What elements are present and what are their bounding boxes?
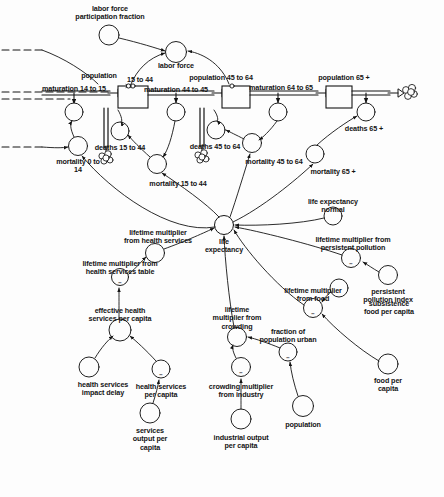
- label-crowding-multiplier-from-industry: crowding multiplier from industry: [209, 383, 273, 400]
- aux-mortality-65-plus: [306, 145, 324, 163]
- label-deaths-65-plus: deaths 65 +: [345, 125, 383, 133]
- label-lifetime-multiplier-from-food: lifetime multiplier from food: [284, 287, 342, 304]
- offpage-dashed-links: [2, 50, 108, 147]
- rate-maturation-14-15: [65, 103, 83, 121]
- label-industrial-output-per-capita: industrial output per capita: [214, 434, 269, 451]
- system-dynamics-diagram: labor force participation fraction labor…: [0, 0, 444, 497]
- label-health-services-per-capita: health services per capita: [136, 383, 186, 400]
- sink-cloud-65-plus: [403, 84, 418, 99]
- label-mortality-15-to-44: mortality 15 to 44: [149, 180, 206, 188]
- label-effective-health-services-per-capita: effective health services per capita: [89, 307, 152, 324]
- label-labor-force: labor force: [158, 62, 194, 70]
- polarity-mark-pollution-multiplier: −: [349, 261, 353, 267]
- aux-labor-force: [166, 42, 187, 63]
- label-mortality-0-to-14: mortality 0 to 14: [56, 158, 100, 175]
- polarity-mark-health-services-table: −: [118, 280, 122, 286]
- label-subsistence-food-per-capita: subsistence food per capita: [364, 300, 414, 317]
- aux-life-expectancy: [215, 216, 234, 235]
- stock-population-45-64: [222, 86, 250, 108]
- label-population-65-plus: population 65 +: [318, 74, 369, 82]
- label-maturation-64-to-65: maturation 64 to 65: [249, 84, 313, 92]
- label-services-output-per-capita: services output per capita: [133, 427, 168, 452]
- label-population-15-44-a: population: [81, 72, 117, 80]
- polarity-mark-food-multiplier: −: [311, 311, 315, 317]
- label-maturation-14-to-15: maturation 14 to 15: [42, 85, 106, 93]
- sink-cloud-15-44: [99, 151, 113, 164]
- label-mortality-65-plus: mortality 65 +: [310, 168, 355, 176]
- label-mortality-45-to-64: mortality 45 to 64: [245, 158, 302, 166]
- label-deaths-15-to-44: deaths 15 to 44: [95, 144, 145, 152]
- aux-mortality-45-64: [243, 134, 262, 153]
- aux-mortality-0-14: [69, 137, 88, 156]
- rate-deaths-15-44: [111, 122, 129, 140]
- polarity-mark-fraction-population-urban: −: [286, 355, 290, 361]
- flow-pipe-deaths-65-plus: [352, 91, 398, 103]
- label-health-services-impact-delay: health services impact delay: [78, 381, 128, 398]
- label-food-per-capita: food per capita: [374, 377, 402, 394]
- label-lifetime-multiplier-from-crowding: lifetime multiplier from crowding: [213, 306, 262, 331]
- label-fraction-of-population-urban: fraction of population urban: [259, 328, 316, 345]
- aux-labor-force-participation-fraction: [99, 25, 119, 45]
- label-population-15-44-b: 15 to 44: [127, 76, 153, 84]
- label-labor-force-participation-fraction: labor force participation fraction: [75, 5, 144, 22]
- label-population: population: [285, 421, 321, 429]
- polarity-mark-health-services-per-capita: −: [159, 372, 163, 378]
- aux-population: [293, 396, 314, 417]
- aux-industrial-output-per-capita: [231, 409, 251, 429]
- label-life-expectancy: life expectancy: [205, 238, 243, 255]
- aux-mortality-15-44: [148, 155, 167, 174]
- polarity-mark-crowding-from-industry: −: [239, 370, 243, 376]
- stock-population-65-plus: [326, 86, 352, 108]
- aux-food-per-capita: [378, 354, 398, 374]
- aux-services-output-per-capita: [140, 403, 160, 423]
- label-lifetime-multiplier-from-persistent-pollution: lifetime multiplier from persistent poll…: [315, 236, 390, 253]
- label-maturation-44-to-45: maturation 44 to 45: [144, 86, 208, 94]
- flow-pipe-maturation-64-65: [250, 91, 326, 103]
- label-deaths-45-to-64: deaths 45 to 64: [190, 143, 240, 151]
- aux-persistent-pollution-index: [379, 266, 398, 285]
- rate-maturation-44-45: [167, 103, 185, 121]
- label-life-expectancy-normal: life expectancy normal: [308, 198, 358, 215]
- label-population-45-to-64: population 45 to 64: [189, 74, 253, 82]
- aux-health-services-impact-delay: [79, 357, 99, 377]
- rate-deaths-65-plus: [357, 103, 375, 121]
- rate-maturation-64-65: [269, 103, 287, 121]
- label-lifetime-multiplier-from-health-services-table: lifetime multiplier from health services…: [82, 260, 157, 277]
- label-lifetime-multiplier-from-health-services: lifetime multiplier from health services: [124, 229, 192, 246]
- sink-cloud-45-64: [195, 150, 209, 163]
- rate-deaths-45-64: [207, 121, 225, 139]
